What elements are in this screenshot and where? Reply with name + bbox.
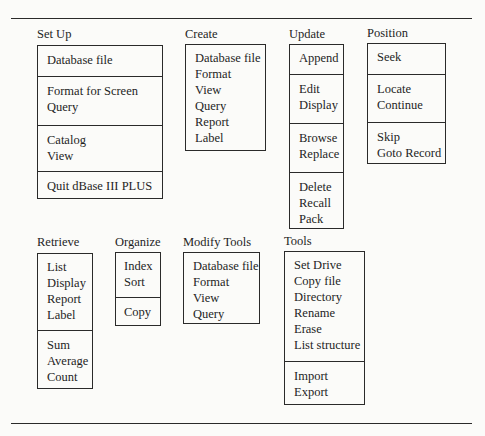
menu-item-list-structure[interactable]: List structure <box>294 337 364 353</box>
menu-item-edit[interactable]: Edit <box>299 81 343 97</box>
menu-item-sum[interactable]: Sum <box>47 337 92 353</box>
menu-title-set-up: Set Up <box>37 27 71 41</box>
menu-section: ListDisplayReportLabel <box>38 254 92 330</box>
menu-item-locate[interactable]: Locate <box>377 81 445 97</box>
menu-section: LocateContinue <box>368 74 445 122</box>
menu-item-goto-record[interactable]: Goto Record <box>377 145 445 161</box>
menu-section: SumAverageCount <box>38 330 92 387</box>
menu-item-database-file[interactable]: Database file <box>195 50 265 66</box>
menu-item-view[interactable]: View <box>47 148 162 164</box>
menu-item-copy-file[interactable]: Copy file <box>294 273 364 289</box>
menu-section: DeleteRecallPack <box>290 172 343 227</box>
menu-title-organize: Organize <box>115 235 161 249</box>
menu-item-recall[interactable]: Recall <box>299 195 343 211</box>
menu-item-set-drive[interactable]: Set Drive <box>294 257 364 273</box>
menu-section: Database fileFormatViewQuery <box>184 253 259 322</box>
menu-item-query[interactable]: Query <box>195 98 265 114</box>
menu-item-continue[interactable]: Continue <box>377 97 445 113</box>
menu-section: Append <box>290 45 343 74</box>
menu-item-view[interactable]: View <box>193 290 259 306</box>
menu-item-browse[interactable]: Browse <box>299 130 343 146</box>
menu-item-sort[interactable]: Sort <box>124 274 160 290</box>
menu-item-rename[interactable]: Rename <box>294 305 364 321</box>
menu-item-format[interactable]: Format <box>195 66 265 82</box>
menu-item-index[interactable]: Index <box>124 258 160 274</box>
menu-section: Database fileFormatViewQueryReportLabel <box>186 45 265 149</box>
menu-box-update: AppendEditDisplayBrowseReplaceDeleteReca… <box>289 44 344 229</box>
menu-section: Set DriveCopy fileDirectoryRenameEraseLi… <box>285 252 364 361</box>
menu-box-tools: Set DriveCopy fileDirectoryRenameEraseLi… <box>284 251 365 405</box>
menu-box-organize: IndexSortCopy <box>115 252 161 326</box>
menu-item-replace[interactable]: Replace <box>299 146 343 162</box>
menu-item-quit-dbase-iii-plus[interactable]: Quit dBase III PLUS <box>47 178 162 194</box>
menu-section: SkipGoto Record <box>368 122 445 162</box>
menu-item-append[interactable]: Append <box>299 50 343 66</box>
menu-section: Seek <box>368 44 445 74</box>
menu-item-query[interactable]: Query <box>193 306 259 322</box>
menu-item-average[interactable]: Average <box>47 353 92 369</box>
menu-item-copy[interactable]: Copy <box>124 304 160 320</box>
menu-item-list[interactable]: List <box>47 259 92 275</box>
menu-section: Format for ScreenQuery <box>38 76 162 125</box>
menu-title-position: Position <box>367 26 408 40</box>
menu-title-modify-tools: Modify Tools <box>183 235 251 249</box>
menu-item-label[interactable]: Label <box>195 130 265 146</box>
menu-section: Database file <box>38 46 162 76</box>
menu-item-skip[interactable]: Skip <box>377 129 445 145</box>
menu-section: ImportExport <box>285 361 364 403</box>
menu-item-query[interactable]: Query <box>47 99 162 115</box>
menu-item-format-for-screen[interactable]: Format for Screen <box>47 83 162 99</box>
menu-section: EditDisplay <box>290 74 343 123</box>
menu-item-format[interactable]: Format <box>193 274 259 290</box>
menu-box-position: SeekLocateContinueSkipGoto Record <box>367 43 446 164</box>
menu-item-erase[interactable]: Erase <box>294 321 364 337</box>
menu-item-label[interactable]: Label <box>47 307 92 323</box>
menu-title-tools: Tools <box>284 234 312 248</box>
top-rule <box>11 18 472 19</box>
menu-section: CatalogView <box>38 125 162 171</box>
menu-item-catalog[interactable]: Catalog <box>47 132 162 148</box>
menu-box-create: Database fileFormatViewQueryReportLabel <box>185 44 266 151</box>
menu-item-database-file[interactable]: Database file <box>193 258 259 274</box>
menu-title-retrieve: Retrieve <box>37 235 79 249</box>
menu-box-set-up: Database fileFormat for ScreenQueryCatal… <box>37 45 163 199</box>
menu-section: IndexSort <box>116 253 160 297</box>
menu-item-delete[interactable]: Delete <box>299 179 343 195</box>
menu-item-count[interactable]: Count <box>47 369 92 385</box>
menu-item-import[interactable]: Import <box>294 368 364 384</box>
menu-item-directory[interactable]: Directory <box>294 289 364 305</box>
menu-item-report[interactable]: Report <box>47 291 92 307</box>
menu-box-modify-tools: Database fileFormatViewQuery <box>183 252 260 324</box>
menu-item-view[interactable]: View <box>195 82 265 98</box>
menu-title-update: Update <box>289 27 325 41</box>
menu-item-report[interactable]: Report <box>195 114 265 130</box>
menu-section: Copy <box>116 297 160 324</box>
menu-item-display[interactable]: Display <box>299 97 343 113</box>
menu-box-retrieve: ListDisplayReportLabelSumAverageCount <box>37 253 93 389</box>
menu-item-export[interactable]: Export <box>294 384 364 400</box>
menu-section: Quit dBase III PLUS <box>38 171 162 197</box>
menu-item-seek[interactable]: Seek <box>377 49 445 65</box>
menu-section: BrowseReplace <box>290 123 343 172</box>
menu-item-pack[interactable]: Pack <box>299 211 343 227</box>
menu-title-create: Create <box>185 27 218 41</box>
menu-item-database-file[interactable]: Database file <box>47 52 162 68</box>
bottom-rule <box>11 423 472 424</box>
menu-item-display[interactable]: Display <box>47 275 92 291</box>
